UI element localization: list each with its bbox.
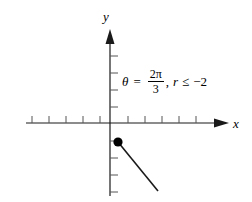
x-axis-ticks-left bbox=[32, 116, 100, 123]
equation-annotation: θ = 2π 3 , r ≤ −2 bbox=[122, 68, 207, 95]
y-axis-arrowhead bbox=[106, 29, 115, 44]
y-axis-ticks-above bbox=[110, 56, 118, 107]
inequality-sign: ≤ bbox=[182, 75, 189, 88]
x-axis-arrowhead bbox=[214, 119, 229, 128]
equals-sign: = bbox=[133, 75, 140, 88]
r-value: −2 bbox=[193, 75, 207, 88]
fraction-two-pi-over-three: 2π 3 bbox=[148, 68, 164, 95]
ray-endpoint-dot bbox=[113, 137, 122, 146]
y-axis-label: y bbox=[103, 10, 109, 23]
y-axis-ticks-below bbox=[110, 141, 118, 192]
x-axis-ticks-right bbox=[128, 116, 196, 123]
comma-separator: , bbox=[166, 75, 169, 88]
r-symbol: r bbox=[173, 75, 178, 88]
theta-symbol: θ bbox=[122, 75, 128, 88]
polar-graph-figure: y x θ = 2π 3 , r ≤ −2 bbox=[0, 0, 252, 202]
ray-line bbox=[118, 142, 158, 191]
x-axis-label: x bbox=[233, 117, 239, 130]
fraction-denominator: 3 bbox=[151, 82, 161, 95]
coordinate-plane-svg bbox=[0, 0, 252, 202]
fraction-numerator: 2π bbox=[148, 68, 164, 81]
